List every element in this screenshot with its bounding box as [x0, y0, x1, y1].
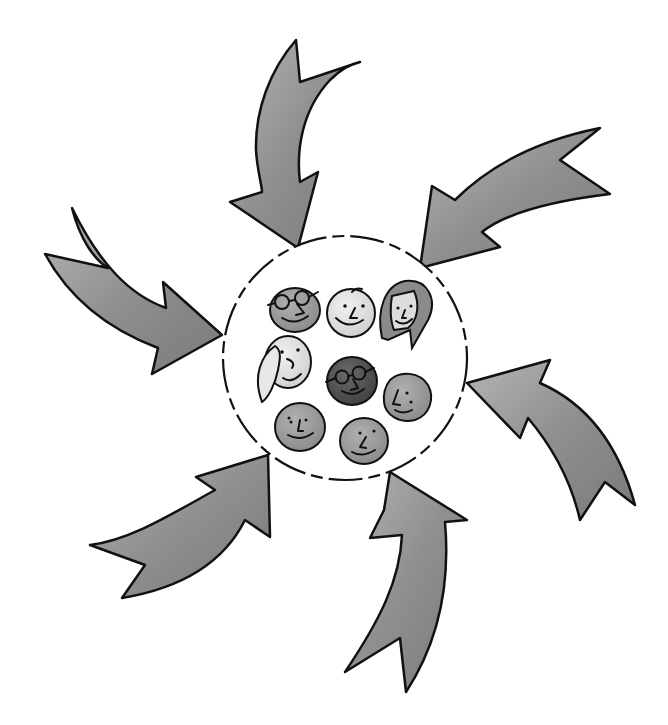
arrow-top-icon: [230, 40, 360, 248]
face-mid-bottom-icon: [340, 418, 388, 464]
face-light-bottom-left-icon: [275, 403, 325, 451]
face-light-bald-icon: [327, 288, 375, 337]
face-side-profile-icon: [384, 374, 431, 421]
arrow-bottom-icon: [345, 472, 467, 692]
arrow-left-icon: [45, 208, 222, 374]
arrow-top-right-icon: [420, 128, 610, 268]
face-glasses-man-dark-icon: [326, 357, 377, 405]
converging-arrows-diagram: [0, 0, 668, 725]
face-glasses-man-top-icon: [268, 288, 320, 332]
arrow-bottom-left-icon: [90, 455, 270, 598]
diagram-canvas: Group of people: [0, 0, 668, 725]
arrow-right-icon: [467, 360, 635, 520]
